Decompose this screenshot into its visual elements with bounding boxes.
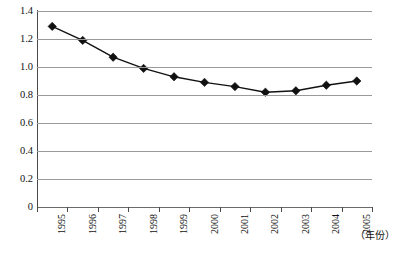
plot-area bbox=[37, 11, 372, 207]
x-axis-tick bbox=[37, 207, 38, 212]
data-point-marker bbox=[109, 53, 117, 61]
x-axis-tick-label: 2003 bbox=[301, 214, 311, 254]
x-axis-tick bbox=[372, 207, 373, 212]
y-axis-tick-labels: 1.41.21.00.80.60.40.20 bbox=[0, 0, 33, 254]
x-axis-tick bbox=[281, 207, 282, 212]
x-axis-tick-label: 2000 bbox=[210, 214, 220, 254]
x-axis-tick bbox=[128, 207, 129, 212]
x-axis-tick bbox=[311, 207, 312, 212]
x-axis-tick bbox=[189, 207, 190, 212]
y-axis-tick-label: 1.2 bbox=[1, 34, 33, 45]
data-point-marker bbox=[292, 87, 300, 95]
gridline bbox=[37, 11, 372, 12]
x-axis-tick bbox=[98, 207, 99, 212]
gridline bbox=[37, 151, 372, 152]
gridline bbox=[37, 95, 372, 96]
x-axis-tick-label: 1997 bbox=[118, 214, 128, 254]
gridline bbox=[37, 179, 372, 180]
x-axis-tick bbox=[67, 207, 68, 212]
x-axis-tick-label: 2001 bbox=[240, 214, 250, 254]
gridline bbox=[37, 67, 372, 68]
data-series-layer bbox=[37, 11, 372, 207]
y-axis-tick-label: 0 bbox=[1, 202, 33, 213]
data-point-marker bbox=[170, 73, 178, 81]
y-axis-tick-label: 1.4 bbox=[1, 6, 33, 17]
data-point-marker bbox=[200, 78, 208, 86]
data-point-marker bbox=[139, 64, 147, 72]
line-chart: 1.41.21.00.80.60.40.20 （年份） 199519961997… bbox=[0, 0, 403, 254]
x-axis-tick-label: 1996 bbox=[88, 214, 98, 254]
x-axis-tick-label: 1999 bbox=[179, 214, 189, 254]
y-axis-tick-label: 0.8 bbox=[1, 90, 33, 101]
gridline bbox=[37, 123, 372, 124]
x-axis-tick bbox=[220, 207, 221, 212]
x-axis-tick-label: 2005 bbox=[362, 214, 372, 254]
y-axis-tick-label: 0.6 bbox=[1, 118, 33, 129]
data-point-marker bbox=[231, 82, 239, 90]
data-point-marker bbox=[353, 77, 361, 85]
x-axis-tick-label: 1995 bbox=[57, 214, 67, 254]
data-point-marker bbox=[78, 36, 86, 44]
data-point-marker bbox=[48, 22, 56, 30]
x-axis-tick-label: 2004 bbox=[331, 214, 341, 254]
x-axis-tick-label: 1998 bbox=[149, 214, 159, 254]
x-axis-tick bbox=[250, 207, 251, 212]
x-axis-tick-label: 2002 bbox=[270, 214, 280, 254]
data-point-marker bbox=[322, 81, 330, 89]
gridline bbox=[37, 207, 372, 208]
gridline bbox=[37, 39, 372, 40]
x-axis-tick bbox=[159, 207, 160, 212]
x-axis-tick bbox=[342, 207, 343, 212]
y-axis-tick-label: 0.4 bbox=[1, 146, 33, 157]
y-axis-tick-label: 1.0 bbox=[1, 62, 33, 73]
y-axis-tick-label: 0.2 bbox=[1, 174, 33, 185]
